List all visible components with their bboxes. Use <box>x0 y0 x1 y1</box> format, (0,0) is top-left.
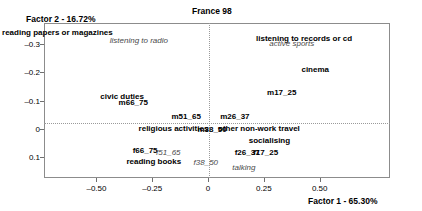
point-label: cinema <box>301 66 329 74</box>
y-axis-tick <box>40 72 44 73</box>
y-axis-tick-label: 0.1 <box>29 152 40 161</box>
y-axis-tick <box>40 44 44 45</box>
x-axis-title: Factor 1 - 65.30% <box>308 196 377 206</box>
y-axis-tick-label: –0.1 <box>24 96 40 105</box>
point-label: f17_25 <box>253 149 278 157</box>
point-label: active sports <box>269 40 314 48</box>
y-axis-tick <box>40 157 44 158</box>
point-label: m26_37 <box>220 113 249 121</box>
point-label: m66_75 <box>119 99 148 107</box>
x-axis-tick <box>320 178 321 182</box>
y-axis-tick-label: –0.3 <box>24 40 40 49</box>
point-label: f66_75 <box>133 147 158 155</box>
x-axis-tick <box>152 178 153 182</box>
point-label: m38_50 <box>197 126 226 134</box>
y-axis-tick-label: –0.2 <box>24 68 40 77</box>
point-label: f38_50 <box>194 159 218 167</box>
point-label: f51_65 <box>156 149 180 157</box>
vertical-zero-reference-line <box>209 23 210 178</box>
plot-frame <box>44 23 390 178</box>
point-label: m17_25 <box>267 89 296 97</box>
x-axis-tick-label: 0.25 <box>256 184 272 193</box>
x-axis-tick-label: –0.25 <box>142 184 162 193</box>
x-axis-tick <box>264 178 265 182</box>
y-axis-tick <box>40 129 44 130</box>
point-label: socialising <box>249 137 290 145</box>
point-label: other non-work travel <box>218 125 300 133</box>
x-axis-tick-label: 0.50 <box>312 184 328 193</box>
correspondence-analysis-plot: France 98 Factor 2 - 16.72% Factor 1 - 6… <box>0 0 422 211</box>
point-label: listening to radio <box>110 37 168 45</box>
chart-title: France 98 <box>192 6 232 16</box>
x-axis-tick-label: –0.50 <box>86 184 106 193</box>
x-axis-tick-label: 0 <box>206 184 210 193</box>
point-label: talking <box>232 164 255 172</box>
x-axis-tick <box>96 178 97 182</box>
point-label: reading papers or magazines <box>2 29 113 37</box>
x-axis-tick <box>208 178 209 182</box>
y-axis-tick-label: 0 <box>36 124 40 133</box>
point-label: reading books <box>126 158 181 166</box>
point-label: m51_65 <box>172 113 201 121</box>
y-axis-tick <box>40 101 44 102</box>
